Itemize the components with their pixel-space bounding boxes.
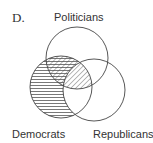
republicans-label: Republicans bbox=[93, 129, 153, 140]
option-label: D. bbox=[12, 11, 25, 24]
democrats-label: Democrats bbox=[12, 129, 65, 140]
politicians-label: Politicians bbox=[54, 12, 104, 23]
